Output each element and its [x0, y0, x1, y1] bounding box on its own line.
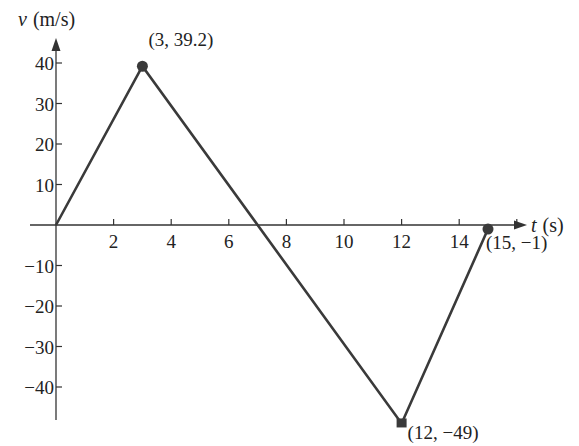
y-tick-label: −20	[24, 296, 54, 317]
x-tick-label: 2	[109, 231, 119, 252]
x-tick-label: 8	[282, 231, 292, 252]
velocity-time-chart: v(m/s) t(s) 246810121440302010−10−20−30−…	[0, 0, 579, 446]
x-tick-label: 4	[166, 231, 176, 252]
velocity-line	[56, 66, 488, 423]
labels: v(m/s) t(s) 246810121440302010−10−20−30−…	[18, 8, 564, 444]
data-point-marker	[137, 61, 148, 72]
y-axis-var: v	[18, 8, 27, 30]
y-tick-label: −10	[24, 256, 54, 277]
x-tick-label: 14	[450, 231, 470, 252]
data-point-label: (12, −49)	[408, 422, 479, 444]
x-tick-label: 10	[335, 231, 354, 252]
y-axis-unit: (m/s)	[33, 8, 75, 31]
y-tick-label: 30	[35, 94, 54, 115]
y-tick-label: 10	[35, 175, 54, 196]
y-tick-label: 20	[35, 134, 54, 155]
data-series	[56, 61, 494, 428]
y-tick-label: −30	[24, 337, 54, 358]
axes	[30, 38, 527, 420]
y-axis-label: v(m/s)	[18, 8, 75, 31]
x-axis-arrow-icon	[514, 221, 527, 230]
data-point-marker	[397, 418, 407, 427]
y-axis-arrow-icon	[52, 38, 61, 51]
data-point-label: (3, 39.2)	[148, 29, 213, 51]
y-tick-label: 40	[35, 53, 54, 74]
data-point-label: (15, −1)	[486, 232, 547, 254]
x-tick-label: 6	[224, 231, 234, 252]
y-tick-label: −40	[24, 377, 54, 398]
x-tick-label: 12	[392, 231, 411, 252]
